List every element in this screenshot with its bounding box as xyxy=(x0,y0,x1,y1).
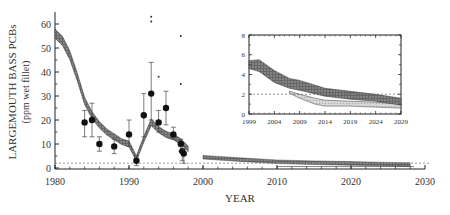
data-point xyxy=(81,110,87,136)
y-axis-title: LARGEMOUTH BASS PCBs (ppm wet fillet) xyxy=(6,24,32,159)
data-point xyxy=(96,137,102,151)
outlier-point xyxy=(180,83,182,85)
y-axis-label: LARGEMOUTH BASS PCBs xyxy=(6,24,18,159)
forecast-band xyxy=(203,155,410,166)
data-point xyxy=(148,62,154,120)
inset-y-tick-label: 8 xyxy=(242,32,246,40)
outlier-point xyxy=(150,21,152,23)
x-tick-label: 2030 xyxy=(415,176,435,187)
x-tick-label: 2000 xyxy=(193,176,213,187)
outlier-point xyxy=(180,35,182,37)
x-tick-label: 2010 xyxy=(267,176,287,187)
x-axis-label: YEAR xyxy=(225,192,256,204)
y-tick-label: 50 xyxy=(41,43,51,54)
outlier-point xyxy=(158,76,160,78)
x-tick-label: 1980 xyxy=(45,176,65,187)
inset-x-tick-label: 2014 xyxy=(318,118,333,126)
inset-x-tick-label: 2009 xyxy=(293,118,308,126)
inset-y-tick-label: 2 xyxy=(242,91,246,99)
outlier-point xyxy=(150,16,152,18)
y-tick-label: 20 xyxy=(41,115,51,126)
inset-x-tick-label: 2029 xyxy=(394,118,409,126)
y-axis-sublabel: (ppm wet fillet) xyxy=(20,61,32,124)
inset-x-tick-label: 2004 xyxy=(267,118,282,126)
inset-y-tick-label: 6 xyxy=(242,51,246,59)
inset-y-tick-label: 4 xyxy=(242,71,246,79)
inset-x-tick-label: 2024 xyxy=(369,118,384,126)
x-tick-label: 2020 xyxy=(341,176,361,187)
inset-x-tick-label: 2019 xyxy=(343,118,358,126)
y-tick-label: 60 xyxy=(41,19,51,30)
pcb-chart: 0102030405060198019902000201020202030 LA… xyxy=(0,0,450,215)
hindcast-band xyxy=(55,29,188,161)
y-tick-label: 10 xyxy=(41,139,51,150)
data-point xyxy=(141,94,147,137)
data-point xyxy=(163,91,169,125)
observed-points xyxy=(81,62,187,165)
y-tick-label: 40 xyxy=(41,67,51,78)
data-point xyxy=(133,156,139,166)
y-tick-label: 0 xyxy=(46,163,51,174)
inset-x-tick-label: 1999 xyxy=(242,118,257,126)
y-tick-label: 30 xyxy=(41,91,51,102)
inset-chart: 024681999200420092014201920242029 xyxy=(242,32,409,127)
x-tick-label: 1990 xyxy=(119,176,139,187)
outlier-points xyxy=(150,16,182,85)
